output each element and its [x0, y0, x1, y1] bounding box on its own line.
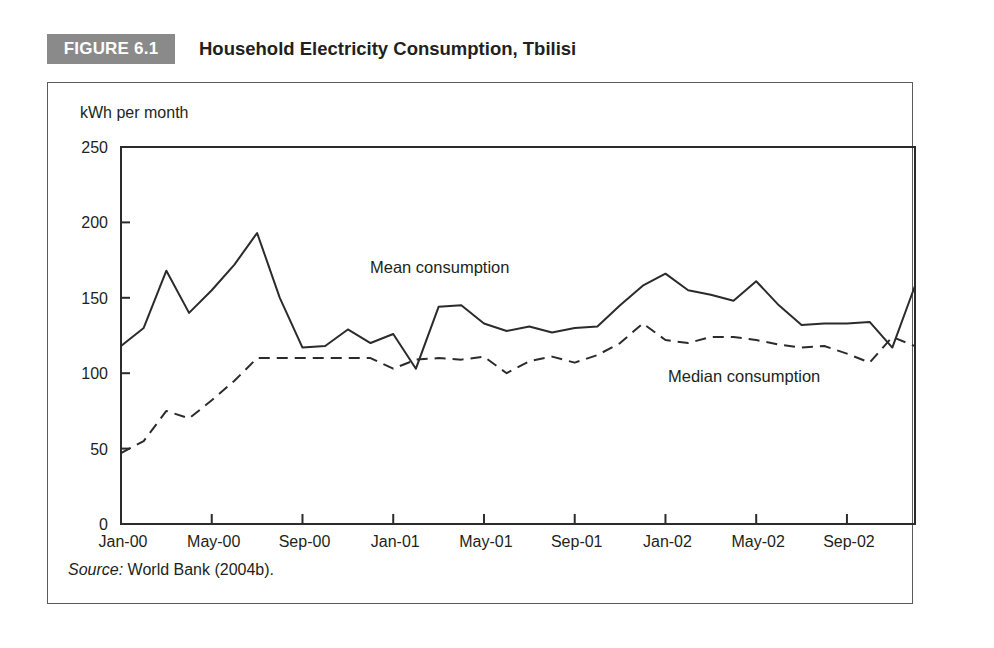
series-annotation-mean: Mean consumption: [370, 258, 509, 276]
x-axis-tick-label: Jan-00: [99, 533, 148, 550]
x-axis-tick-label: Sep-01: [551, 533, 603, 550]
y-axis-tick-label: 250: [81, 139, 108, 156]
plot-frame: [121, 147, 915, 524]
x-axis-tick-label: Sep-02: [823, 533, 875, 550]
series-line-median: [121, 323, 915, 453]
x-axis-tick-label: May-02: [732, 533, 785, 550]
x-axis-tick-label: May-00: [187, 533, 240, 550]
series-line-mean: [121, 233, 915, 369]
y-axis-tick-label: 0: [99, 516, 108, 533]
x-axis-tick-label: May-01: [459, 533, 512, 550]
x-axis-tick-label: Jan-01: [371, 533, 420, 550]
y-axis-tick-label: 150: [81, 290, 108, 307]
x-axis-tick-label: Jan-02: [643, 533, 692, 550]
line-chart-plot: 050100150200250Jan-00May-00Sep-00Jan-01M…: [0, 0, 994, 648]
y-axis-tick-label: 200: [81, 214, 108, 231]
series-annotation-median: Median consumption: [668, 367, 820, 385]
y-axis-tick-label: 50: [90, 441, 108, 458]
figure-root: FIGURE 6.1 Household Electricity Consump…: [0, 0, 994, 648]
x-axis-tick-label: Sep-00: [279, 533, 331, 550]
y-axis-tick-label: 100: [81, 365, 108, 382]
